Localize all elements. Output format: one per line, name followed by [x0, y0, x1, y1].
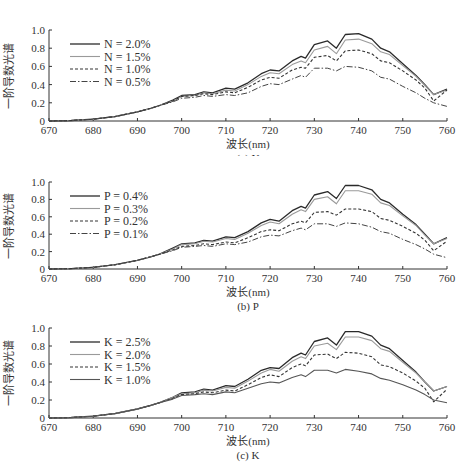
- y-tick-label: 0.2: [31, 394, 45, 406]
- chart-panel-a: 00.20.40.60.81.0670680690700710720730740…: [0, 0, 466, 156]
- x-tick-label: 670: [41, 124, 58, 136]
- x-tick-label: 710: [218, 421, 235, 433]
- x-tick-label: 710: [218, 272, 235, 284]
- x-tick-label: 750: [395, 421, 412, 433]
- x-axis-label: 波长(nm): [226, 435, 270, 448]
- y-tick-label: 0.8: [31, 193, 45, 205]
- y-tick-label: 0.8: [31, 340, 45, 352]
- x-tick-label: 690: [129, 124, 146, 136]
- x-tick-label: 720: [262, 272, 279, 284]
- chart-b: 00.20.40.60.81.0670680690700710720730740…: [0, 156, 466, 312]
- y-tick-label: 1.0: [31, 322, 45, 334]
- chart-a: 00.20.40.60.81.0670680690700710720730740…: [0, 0, 466, 156]
- x-tick-label: 720: [262, 421, 279, 433]
- x-tick-label: 740: [350, 124, 367, 136]
- legend-label: N = 0.5%: [104, 75, 150, 89]
- y-axis-label: 一阶导数光谱: [2, 193, 15, 259]
- panel-caption: (c) K: [237, 449, 260, 462]
- x-tick-label: 720: [262, 124, 279, 136]
- x-tick-label: 700: [173, 421, 190, 433]
- y-tick-label: 0.2: [31, 97, 45, 109]
- x-tick-label: 730: [306, 124, 323, 136]
- x-tick-label: 740: [350, 421, 367, 433]
- legend-label: K = 1.0%: [104, 373, 150, 387]
- x-tick-label: 700: [173, 272, 190, 284]
- y-axis-label: 一阶导数光谱: [2, 340, 15, 406]
- x-axis-label: 波长(nm): [226, 286, 270, 299]
- y-tick-label: 0.8: [31, 42, 45, 54]
- x-tick-label: 680: [85, 421, 102, 433]
- x-tick-label: 670: [41, 421, 58, 433]
- y-tick-label: 0.2: [31, 246, 45, 258]
- x-tick-label: 740: [350, 272, 367, 284]
- x-tick-label: 760: [439, 421, 456, 433]
- x-tick-label: 760: [439, 124, 456, 136]
- y-tick-label: 0.4: [31, 79, 45, 91]
- y-tick-label: 0.4: [31, 228, 45, 240]
- y-tick-label: 0.6: [31, 211, 45, 223]
- chart-panel-b: 00.20.40.60.81.0670680690700710720730740…: [0, 156, 466, 312]
- x-tick-label: 760: [439, 272, 456, 284]
- y-tick-label: 1.0: [31, 24, 45, 36]
- x-tick-label: 680: [85, 272, 102, 284]
- x-tick-label: 700: [173, 124, 190, 136]
- x-tick-label: 730: [306, 421, 323, 433]
- y-axis-label: 一阶导数光谱: [2, 43, 15, 109]
- panel-caption: (b) P: [237, 300, 259, 312]
- x-tick-label: 690: [129, 421, 146, 433]
- y-tick-label: 0.6: [31, 358, 45, 370]
- x-tick-label: 710: [218, 124, 235, 136]
- x-tick-label: 730: [306, 272, 323, 284]
- x-tick-label: 690: [129, 272, 146, 284]
- x-axis-label: 波长(nm): [226, 138, 270, 151]
- legend-label: P = 0.1%: [104, 227, 148, 241]
- chart-panel-c: 00.20.40.60.81.0670680690700710720730740…: [0, 312, 466, 470]
- x-tick-label: 750: [395, 124, 412, 136]
- y-tick-label: 0.6: [31, 60, 45, 72]
- y-tick-label: 1.0: [31, 176, 45, 188]
- chart-c: 00.20.40.60.81.0670680690700710720730740…: [0, 312, 466, 470]
- x-tick-label: 750: [395, 272, 412, 284]
- x-tick-label: 680: [85, 124, 102, 136]
- x-tick-label: 670: [41, 272, 58, 284]
- y-tick-label: 0.4: [31, 376, 45, 388]
